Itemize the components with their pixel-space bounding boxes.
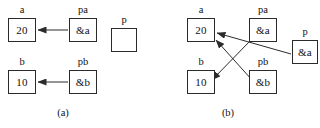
pointer-diagram-figure: a 20 pa &a p b 10 pb &b (a) a 20 pa &a p… (0, 0, 320, 128)
label-pb: pb (249, 57, 277, 68)
label-b: b (187, 57, 215, 68)
label-p: p (292, 27, 318, 38)
box-pointer-p: &a (292, 40, 318, 64)
box-pointer-pa: &a (249, 18, 277, 42)
caption-panel-b: (b) (213, 108, 243, 119)
arrow-pb-to-a (216, 40, 252, 80)
label-pa: pa (249, 5, 277, 16)
arrow-pa-to-b (212, 41, 250, 80)
box-pointer-pb: &b (249, 70, 277, 94)
panel-b: a 20 pa &a p &a b 10 pb &b (b) (0, 0, 320, 128)
box-variable-a: 20 (187, 18, 215, 42)
label-a: a (187, 5, 215, 16)
box-variable-b: 10 (187, 70, 215, 94)
